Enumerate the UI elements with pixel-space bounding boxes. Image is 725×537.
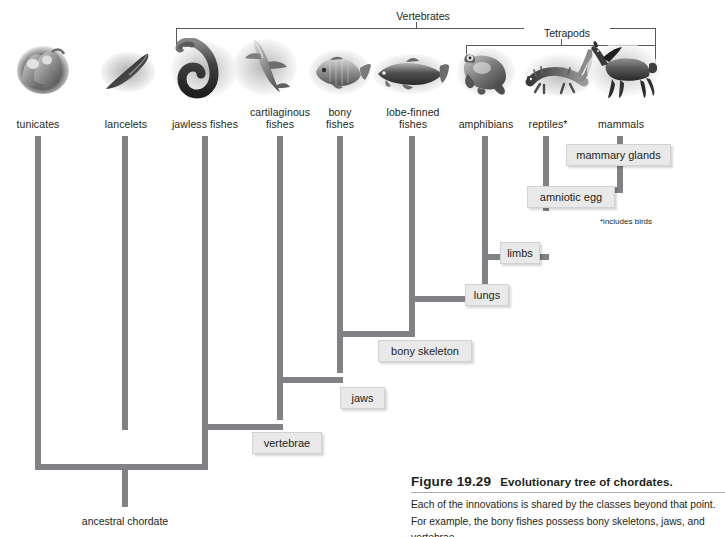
taxon-label-reptiles: reptiles* [519,118,577,130]
figure-title: Evolutionary tree of chordates. [500,476,672,488]
taxon-label-amphibians: amphibians [450,118,522,130]
branch-jaws-crossbar [277,377,343,383]
horse-illustration [586,38,660,100]
taxon-label-mammals: mammals [588,118,654,130]
branch-root-stem [122,464,128,507]
figure-canvas: Vertebrates Tetrapods [0,0,725,537]
shark-illustration [232,36,298,98]
branch-bony-skeleton-stem [337,331,343,373]
figure-number: Figure 19.29 [411,474,491,489]
taxon-label-jawless-fishes: jawless fishes [165,118,245,130]
taxon-label-lancelets: lancelets [91,118,161,130]
branch-amphibians [482,136,488,260]
branch-tunicates [35,136,41,467]
lamprey-illustration [170,38,238,100]
branch-jaws-stem [277,377,283,420]
bony-fish-illustration [308,48,372,96]
tunicate-illustration [16,42,70,94]
branch-vertebrae-crossbar [202,424,283,430]
root-label-ancestral-chordate: ancestral chordate [60,515,190,527]
taxon-label-bony-fishes: bony fishes [310,106,370,130]
footnote-includes-birds: *includes birds [600,217,652,226]
taxon-label-lobe-finned-fishes: lobe-finned fishes [374,106,452,130]
branch-lungs-stem [409,296,415,331]
branch-bony-fishes [337,136,343,336]
innovation-box-mammary-glands[interactable]: mammary glands [566,144,671,166]
frog-illustration [456,44,516,98]
innovation-box-jaws[interactable]: jaws [340,387,385,409]
branch-lancelets [122,136,128,430]
innovation-box-lungs[interactable]: lungs [465,284,509,306]
innovation-box-amniotic-egg[interactable]: amniotic egg [527,186,615,208]
branch-tetrapod-stem [482,254,488,287]
figure-caption: Figure 19.29 Evolutionary tree of chorda… [411,474,725,537]
clade-label-vertebrates: Vertebrates [376,10,470,22]
branch-vertebrae-stem [202,424,208,467]
caption-divider [411,492,725,493]
branch-lobe-finned-fishes [409,136,415,301]
innovation-box-bony-skeleton[interactable]: bony skeleton [378,340,472,362]
innovation-box-limbs[interactable]: limbs [500,242,540,264]
branch-jawless-fishes [202,136,208,430]
caption-title-line: Figure 19.29 Evolutionary tree of chorda… [411,474,725,492]
taxon-label-tunicates: tunicates [3,118,73,130]
branch-bony-skeleton-crossbar [337,331,415,337]
branch-cartilaginous-fishes [277,136,283,383]
taxon-label-cartilaginous-fishes: cartilaginous fishes [241,106,319,130]
innovation-box-vertebrae[interactable]: vertebrae [252,432,322,454]
lobe-finned-fish-illustration [372,52,450,96]
caption-body-text: Each of the innovations is shared by the… [411,497,725,537]
lancelet-illustration [100,48,156,94]
branch-reptiles [543,136,549,193]
